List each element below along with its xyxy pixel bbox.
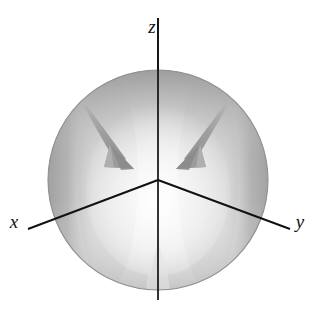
axis-label-y: y — [294, 211, 305, 232]
axis-label-x: x — [9, 211, 19, 232]
sphere-vector-figure: z x y — [0, 0, 318, 312]
axis-label-z: z — [147, 16, 156, 37]
figure-container: z x y — [0, 0, 318, 312]
